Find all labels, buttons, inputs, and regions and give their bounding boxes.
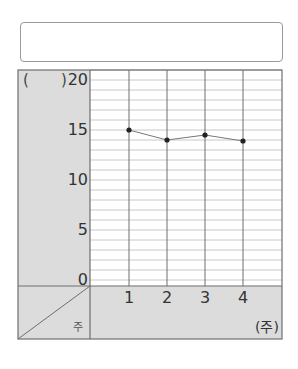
x-axis-corner-label: 주 [73,318,83,334]
unit-paren-close: ) [61,71,67,89]
y-tick-label: 0 [78,270,88,289]
data-line [129,130,243,141]
data-point [240,138,245,143]
data-point [126,127,131,132]
x-axis-unit: (주) [255,316,279,336]
x-tick-label: 4 [238,288,248,307]
y-tick-label: 5 [78,220,88,239]
x-tick-label: 1 [124,288,134,307]
y-tick-label: 15 [68,120,88,139]
data-point [202,132,207,137]
y-tick-label: 20 [68,70,88,89]
x-tick-label: 3 [200,288,210,307]
x-axis-panel [90,286,282,339]
x-tick-label: 2 [162,288,172,307]
y-axis-panel [18,70,90,339]
y-tick-label: 10 [68,170,88,189]
line-chart [0,0,298,369]
data-point [164,137,169,142]
unit-paren-open: ( [23,71,29,89]
